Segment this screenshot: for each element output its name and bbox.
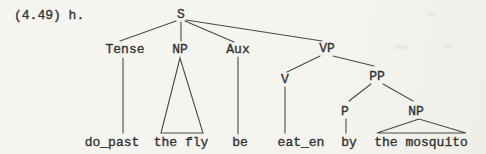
scanned-syntax-tree-figure: (4.49) h. S Tense NP Aux VP V PP P NP do… bbox=[0, 0, 486, 154]
leaf-do-past: do_past bbox=[85, 135, 140, 150]
edge-vp-v bbox=[287, 56, 320, 72]
syntax-tree-canvas: (4.49) h. S Tense NP Aux VP V PP P NP do… bbox=[0, 0, 486, 154]
edge-pp-np-object bbox=[383, 84, 413, 101]
node-tense: Tense bbox=[105, 42, 144, 57]
node-aux: Aux bbox=[226, 42, 250, 57]
edge-pp-p bbox=[349, 84, 371, 101]
node-np-object: NP bbox=[408, 104, 424, 119]
scan-smudge bbox=[443, 45, 453, 49]
leaf-the-mosquito: the mosquito bbox=[374, 135, 468, 150]
node-v: V bbox=[281, 72, 289, 87]
scan-smudge bbox=[427, 13, 435, 16]
leaf-by: by bbox=[341, 135, 357, 150]
node-s: S bbox=[177, 7, 185, 22]
scan-smudge bbox=[394, 45, 408, 50]
example-number-caption: (4.49) h. bbox=[14, 8, 84, 23]
edge-s-tense bbox=[120, 21, 176, 41]
node-p: P bbox=[341, 104, 349, 119]
triangle-np-object bbox=[377, 119, 466, 133]
edge-vp-pp bbox=[333, 56, 374, 66]
leaf-the-fly: the fly bbox=[154, 135, 209, 150]
triangle-np-subject bbox=[161, 58, 203, 133]
node-vp: VP bbox=[319, 41, 335, 56]
leaf-eat-en: eat_en bbox=[278, 135, 325, 150]
node-pp: PP bbox=[369, 69, 385, 84]
leaf-be: be bbox=[232, 135, 248, 150]
node-np-subject: NP bbox=[172, 42, 188, 57]
